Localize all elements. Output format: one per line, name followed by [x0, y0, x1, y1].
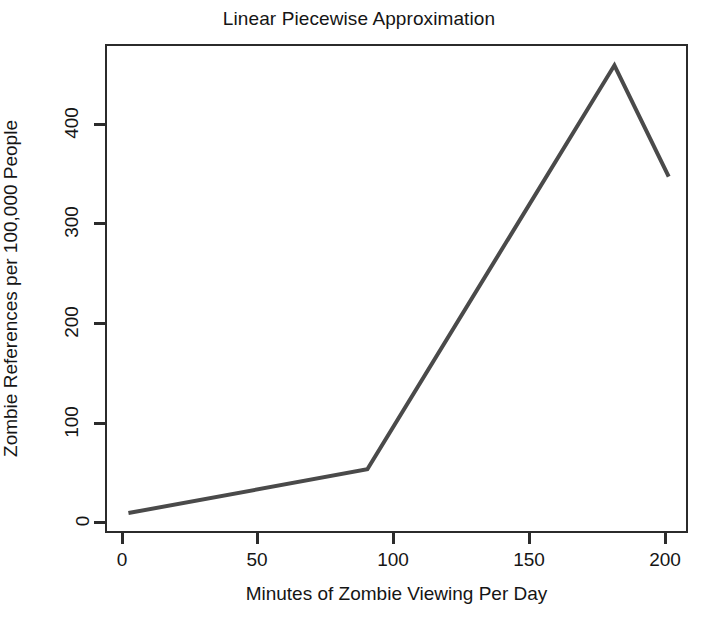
y-tick-label-0: 0 [77, 510, 88, 532]
y-tick-mark-200 [94, 322, 105, 325]
y-tick-label-100: 100 [56, 411, 88, 433]
x-axis-label: Minutes of Zombie Viewing Per Day [105, 583, 688, 605]
chart-title: Linear Piecewise Approximation [0, 8, 718, 30]
data-line-series-1 [128, 65, 668, 513]
y-tick-label-200: 200 [56, 311, 88, 333]
x-tick-label-50: 50 [246, 549, 267, 571]
x-tick-label-150: 150 [513, 549, 545, 571]
x-tick-mark-0 [121, 533, 124, 544]
y-tick-mark-100 [94, 422, 105, 425]
y-tick-label-300-text: 300 [61, 206, 83, 238]
y-tick-label-400-text: 400 [61, 107, 83, 139]
y-axis-label: Zombie References per 100,000 People [0, 44, 34, 533]
y-tick-mark-300 [94, 222, 105, 225]
y-tick-label-0-text: 0 [72, 516, 94, 527]
y-tick-label-200-text: 200 [61, 306, 83, 338]
plot-area [107, 46, 690, 535]
x-tick-label-100: 100 [377, 549, 409, 571]
y-tick-label-400: 400 [56, 112, 88, 134]
y-tick-mark-400 [94, 123, 105, 126]
x-tick-mark-200 [664, 533, 667, 544]
plot-panel [105, 44, 688, 533]
x-tick-mark-100 [392, 533, 395, 544]
y-tick-label-300: 300 [56, 211, 88, 233]
y-tick-mark-0 [94, 521, 105, 524]
y-tick-label-100-text: 100 [61, 406, 83, 438]
x-tick-label-0: 0 [117, 549, 128, 571]
x-tick-mark-50 [256, 533, 259, 544]
x-tick-label-200: 200 [649, 549, 681, 571]
x-tick-mark-150 [528, 533, 531, 544]
chart-figure: Linear Piecewise Approximation 0 50 100 … [0, 0, 718, 638]
